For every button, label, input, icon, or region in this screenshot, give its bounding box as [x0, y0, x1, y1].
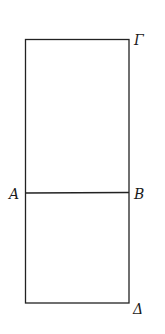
outer-rectangle [26, 40, 130, 304]
segment-ab [26, 193, 130, 194]
label-b: B [133, 186, 144, 202]
label-delta: Δ [132, 301, 143, 317]
label-gamma: Γ [133, 32, 145, 48]
geometry-diagram: Γ A B Δ [0, 0, 165, 334]
label-a: A [7, 186, 19, 202]
